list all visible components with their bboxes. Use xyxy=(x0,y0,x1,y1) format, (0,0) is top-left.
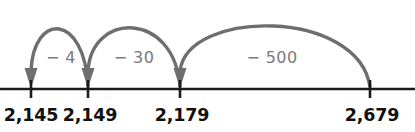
jump-label: − 4 xyxy=(46,48,76,67)
jump-label: − 500 xyxy=(246,48,297,67)
number-line-diagram: 2,1452,1492,1792,679 − 4− 30− 500 xyxy=(0,0,415,132)
jump-arc-group xyxy=(25,26,371,88)
tick-label: 2,149 xyxy=(63,105,117,125)
tick-label-group: 2,1452,1492,1792,679 xyxy=(4,105,399,125)
tick-label: 2,145 xyxy=(4,105,58,125)
tick-label: 2,179 xyxy=(155,105,209,125)
number-line-canvas: 2,1452,1492,1792,679 − 4− 30− 500 xyxy=(0,0,415,132)
jump-label: − 30 xyxy=(114,48,154,67)
tick-label: 2,679 xyxy=(345,105,399,125)
